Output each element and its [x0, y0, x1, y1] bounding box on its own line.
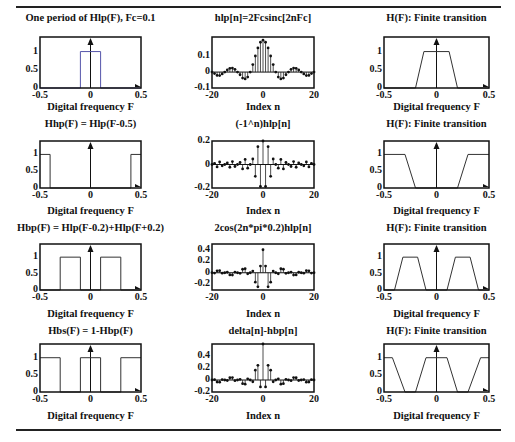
y-tick-label: 0.5 — [352, 267, 382, 278]
x-tick-label: 0.5 — [126, 89, 156, 100]
x-tick-label: 20 — [299, 291, 329, 302]
chart-title: H(F): Finite transition — [347, 222, 515, 233]
y-tick-label: 0.4 — [180, 243, 210, 254]
y-tick-label: 0 — [8, 385, 38, 396]
x-axis-label: Index n — [173, 205, 353, 216]
x-tick-label: 0.5 — [126, 291, 156, 302]
x-axis-label: Index n — [173, 101, 353, 112]
y-tick-label: 0 — [352, 181, 382, 192]
top-rule — [16, 6, 501, 8]
x-tick-label: 0 — [248, 89, 278, 100]
chart-title: H(F): Finite transition — [347, 325, 515, 336]
plot-area — [384, 37, 489, 88]
x-axis-label: Digital frequency F — [1, 205, 181, 216]
y-tick-label: 0 — [180, 373, 210, 384]
x-tick-label: 20 — [299, 189, 329, 200]
y-tick-label: 1 — [352, 147, 382, 158]
x-tick-label: 0 — [248, 393, 278, 404]
x-axis-label: Digital frequency F — [347, 410, 515, 421]
y-tick-label: 1 — [8, 351, 38, 362]
chart-title: H(F): Finite transition — [347, 118, 515, 129]
y-tick-label: 0.5 — [8, 267, 38, 278]
chart-title: Hhp(F) = Hlp(F-0.5) — [1, 118, 181, 129]
chart-title: Hbs(F) = 1-Hbp(F) — [1, 325, 181, 336]
bottom-rule — [16, 429, 501, 431]
x-tick-label: 20 — [299, 89, 329, 100]
plot-area — [212, 244, 314, 290]
x-tick-label: 0 — [248, 189, 278, 200]
plot-area — [40, 344, 141, 392]
y-tick-label: 0.5 — [352, 63, 382, 74]
x-axis-label: Digital frequency F — [347, 308, 515, 319]
y-tick-label: 0.5 — [352, 368, 382, 379]
y-tick-label: 0 — [352, 385, 382, 396]
chart-title: (-1^n)hlp[n] — [173, 118, 353, 129]
x-tick-label: 0.5 — [474, 189, 504, 200]
x-tick-label: 0 — [422, 393, 452, 404]
y-tick-label: 0 — [180, 158, 210, 169]
y-tick-label: -0.2 — [180, 385, 210, 396]
plot-area — [384, 244, 489, 290]
y-tick-label: 0.5 — [8, 63, 38, 74]
x-tick-label: 0 — [422, 89, 452, 100]
y-tick-label: 1 — [352, 250, 382, 261]
x-tick-label: 0 — [76, 189, 106, 200]
y-tick-label: -0.1 — [180, 81, 210, 92]
x-axis-label: Index n — [173, 308, 353, 319]
y-tick-label: 0 — [352, 81, 382, 92]
x-axis-label: Index n — [173, 410, 353, 421]
y-tick-label: 0 — [8, 283, 38, 294]
x-axis-label: Digital frequency F — [1, 410, 181, 421]
x-tick-label: 0.5 — [126, 189, 156, 200]
plot-area — [212, 344, 314, 392]
y-tick-label: 0 — [180, 65, 210, 76]
y-tick-label: 0 — [8, 181, 38, 192]
x-tick-label: 0 — [76, 291, 106, 302]
x-tick-label: 0 — [422, 189, 452, 200]
x-tick-label: 20 — [299, 393, 329, 404]
y-tick-label: 1 — [352, 45, 382, 56]
plot-area — [384, 141, 489, 188]
x-axis-label: Digital frequency F — [347, 205, 515, 216]
y-tick-label: 0.5 — [352, 164, 382, 175]
y-tick-label: 0.5 — [8, 164, 38, 175]
chart-title: hlp[n]=2Fcsinc[2nFc] — [173, 12, 353, 23]
x-axis-label: Digital frequency F — [347, 101, 515, 112]
y-tick-label: 0.4 — [180, 349, 210, 360]
x-tick-label: 0.5 — [474, 291, 504, 302]
x-tick-label: 0.5 — [474, 393, 504, 404]
y-tick-label: 0 — [8, 81, 38, 92]
x-tick-label: 0 — [76, 89, 106, 100]
y-tick-label: -0.2 — [180, 277, 210, 288]
y-tick-label: 0.5 — [8, 368, 38, 379]
plot-area — [40, 141, 141, 188]
y-tick-label: 1 — [8, 45, 38, 56]
plot-area — [212, 37, 314, 88]
x-tick-label: 0 — [422, 291, 452, 302]
y-tick-label: 0.2 — [180, 361, 210, 372]
y-tick-label: 1 — [352, 351, 382, 362]
y-tick-label: 0.2 — [180, 134, 210, 145]
y-tick-label: -0.2 — [180, 181, 210, 192]
y-tick-label: 0 — [180, 266, 210, 277]
chart-title: delta[n]-hbp[n] — [173, 325, 353, 336]
chart-title: H(F): Finite transition — [347, 12, 515, 23]
y-tick-label: 1 — [8, 147, 38, 158]
x-tick-label: 0.5 — [474, 89, 504, 100]
y-tick-label: 0.2 — [180, 254, 210, 265]
x-axis-label: Digital frequency F — [1, 308, 181, 319]
plot-area — [212, 141, 314, 188]
x-tick-label: 0 — [248, 291, 278, 302]
y-tick-label: 0.1 — [180, 49, 210, 60]
x-tick-label: 0 — [76, 393, 106, 404]
plot-area — [40, 244, 141, 290]
plot-area — [40, 37, 141, 88]
x-axis-label: Digital frequency F — [1, 101, 181, 112]
chart-title: 2cos(2n*pi*0.2)hlp[n] — [173, 222, 353, 233]
x-tick-label: 0.5 — [126, 393, 156, 404]
plot-area — [384, 344, 489, 392]
x-tick-label: -20 — [197, 291, 227, 302]
chart-title: One period of Hlp(F), Fc=0.1 — [1, 12, 181, 23]
y-tick-label: 0 — [352, 283, 382, 294]
y-tick-label: 1 — [8, 250, 38, 261]
